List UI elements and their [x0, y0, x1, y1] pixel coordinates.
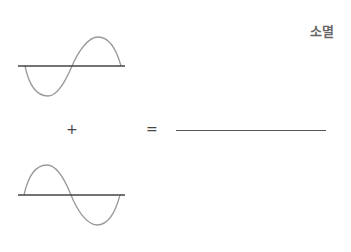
plus-operator: +	[66, 122, 78, 136]
wave-1	[18, 37, 125, 96]
interference-diagram	[0, 0, 351, 252]
wave-2	[18, 165, 125, 225]
equals-operator: =	[146, 122, 158, 136]
result-label: 소멸	[310, 25, 334, 38]
